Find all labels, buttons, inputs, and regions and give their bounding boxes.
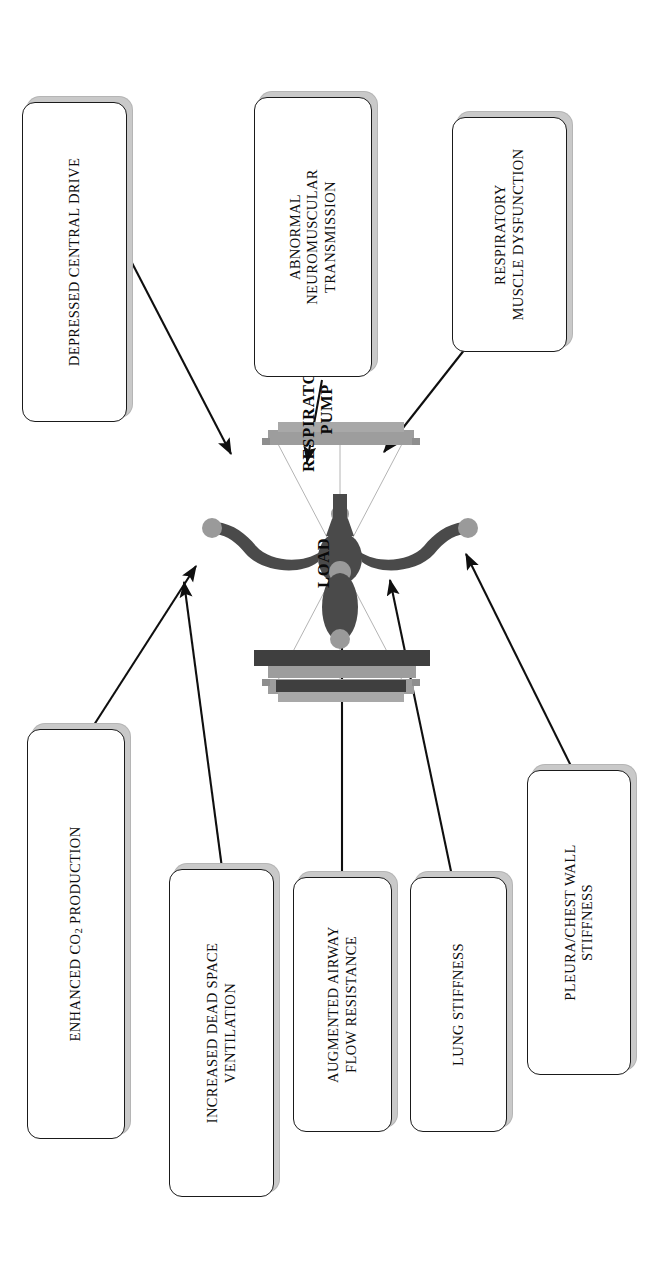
node-label-increased-dead-space-ventilation: INCREASED DEAD SPACE VENTILATION: [204, 943, 238, 1124]
scale-base: [254, 650, 430, 692]
node-depressed-central-drive[interactable]: DEPRESSED CENTRAL DRIVE: [22, 102, 127, 422]
node-abnormal-neuromuscular-transmission[interactable]: ABNORMAL NEUROMUSCULAR TRANSMISSION: [254, 97, 372, 377]
balance-scale-illustration: [150, 392, 530, 722]
node-label-respiratory-muscle-dysfunction: RESPIRATORY MUSCLE DYSFUNCTION: [492, 149, 526, 321]
node-pleura-chest-wall-stiffness[interactable]: PLEURA/CHEST WALL STIFFNESS: [527, 770, 631, 1075]
diagram-canvas: LOAD RESPIRATORY PUMP ENHANCED CO2 PRODU…: [0, 0, 666, 1282]
node-increased-dead-space-ventilation[interactable]: INCREASED DEAD SPACE VENTILATION: [169, 869, 274, 1197]
node-label-depressed-central-drive: DEPRESSED CENTRAL DRIVE: [66, 158, 83, 366]
load-label: LOAD: [315, 538, 333, 588]
node-label-pleura-chest-wall-stiffness: PLEURA/CHEST WALL STIFFNESS: [562, 844, 596, 1001]
scale-pan-pump: [262, 422, 420, 445]
node-label-augmented-airway-flow-resistance: AUGMENTED AIRWAY FLOW RESISTANCE: [325, 926, 359, 1083]
node-augmented-airway-flow-resistance[interactable]: AUGMENTED AIRWAY FLOW RESISTANCE: [293, 877, 392, 1132]
node-enhanced-co2-production[interactable]: ENHANCED CO2 PRODUCTION: [27, 729, 125, 1139]
node-label-lung-stiffness: LUNG STIFFNESS: [450, 943, 467, 1066]
node-lung-stiffness[interactable]: LUNG STIFFNESS: [410, 877, 507, 1132]
node-respiratory-muscle-dysfunction[interactable]: RESPIRATORY MUSCLE DYSFUNCTION: [452, 117, 567, 352]
node-label-abnormal-neuromuscular-transmission: ABNORMAL NEUROMUSCULAR TRANSMISSION: [287, 169, 338, 305]
node-label-enhanced-co2-production: ENHANCED CO2 PRODUCTION: [67, 826, 86, 1041]
